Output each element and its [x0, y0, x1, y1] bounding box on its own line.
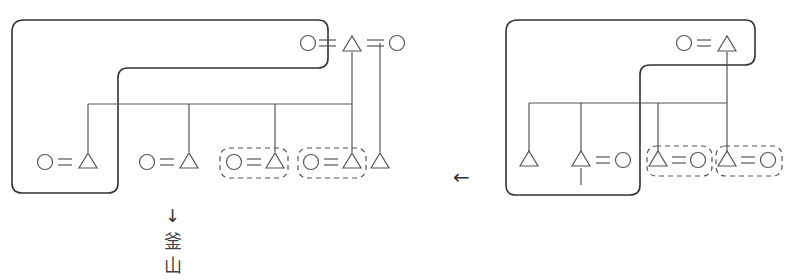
male-icon [266, 153, 284, 168]
female-icon [304, 155, 319, 170]
dashed-household-box [298, 148, 366, 178]
female-icon [677, 36, 692, 51]
kinship-diagram: ← ↓ 釜 山 [0, 0, 790, 280]
out-arrow: ↓ [165, 205, 180, 226]
male-icon [79, 153, 97, 168]
female-icon [390, 36, 405, 51]
male-icon [343, 153, 361, 168]
female-icon [301, 36, 316, 51]
direction-arrow: ← [453, 165, 470, 189]
male-icon [718, 36, 736, 51]
dashed-household-box [716, 146, 782, 176]
destination-label-busan-1: 釜 [164, 231, 182, 252]
dashed-household-box [647, 146, 712, 176]
household-enclosure-right [506, 20, 755, 195]
female-icon [38, 155, 53, 170]
female-icon [140, 155, 155, 170]
male-icon [343, 36, 361, 51]
household-enclosure-left [12, 20, 328, 193]
female-icon [227, 155, 242, 170]
male-icon [649, 151, 667, 166]
female-icon [616, 153, 631, 168]
male-icon [180, 153, 198, 168]
male-icon [572, 151, 590, 166]
female-icon [691, 153, 706, 168]
male-icon [718, 151, 736, 166]
destination-label-busan-2: 山 [164, 255, 182, 276]
male-icon [371, 153, 389, 168]
male-icon [520, 151, 538, 166]
female-icon [761, 153, 776, 168]
dashed-household-box [220, 148, 288, 178]
